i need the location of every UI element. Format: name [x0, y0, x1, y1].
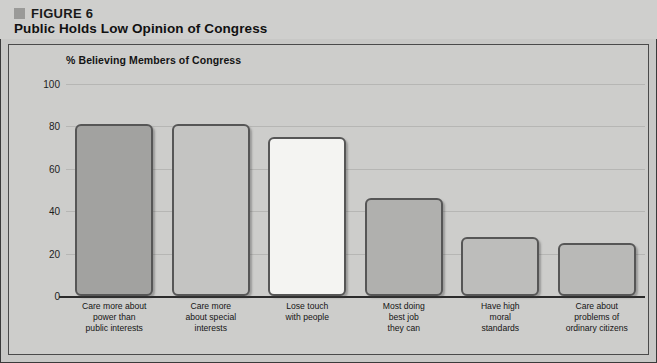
- gridline: [66, 84, 645, 85]
- plot-area: [66, 84, 645, 296]
- x-axis-tick-label: Most doingbest jobthey can: [356, 301, 453, 335]
- figure-number-line: FIGURE 6: [14, 6, 93, 21]
- x-axis-label-line: problems of: [549, 312, 646, 323]
- y-axis-tick-label: 20: [26, 248, 60, 259]
- x-axis-label-line: standards: [452, 323, 549, 334]
- bar: [172, 124, 250, 296]
- gridline: [66, 296, 645, 297]
- x-axis-tick-label: Have highmoralstandards: [452, 301, 549, 335]
- x-axis-label-line: about special: [163, 312, 260, 323]
- figure-number: FIGURE 6: [31, 6, 93, 21]
- x-axis-tick-labels: Care more aboutpower thanpublic interest…: [66, 301, 645, 351]
- x-axis-label-line: best job: [356, 312, 453, 323]
- bar: [461, 237, 539, 296]
- x-axis-tick-label: Care moreabout specialinterests: [163, 301, 260, 335]
- x-axis-label-line: with people: [259, 312, 356, 323]
- x-axis-label-line: power than: [66, 312, 163, 323]
- x-axis-label-line: Have high: [452, 301, 549, 312]
- y-axis-tick-label: 100: [26, 79, 60, 90]
- x-axis-tick-label: Lose touchwith people: [259, 301, 356, 323]
- x-axis-label-line: public interests: [66, 323, 163, 334]
- x-axis-label-line: Most doing: [356, 301, 453, 312]
- gridline: [66, 126, 645, 127]
- bar: [75, 124, 153, 296]
- x-axis-label-line: ordinary citizens: [549, 323, 646, 334]
- x-axis-label-line: Lose touch: [259, 301, 356, 312]
- bar: [268, 137, 346, 296]
- y-axis-tick-label: 80: [26, 121, 60, 132]
- x-axis-label-line: moral: [452, 312, 549, 323]
- x-axis-label-line: Care about: [549, 301, 646, 312]
- y-axis-tick-labels: 020406080100: [24, 84, 60, 296]
- y-axis-tick-label: 40: [26, 206, 60, 217]
- square-bullet-icon: [14, 8, 25, 19]
- x-axis-label-line: Care more about: [66, 301, 163, 312]
- x-axis-label-line: they can: [356, 323, 453, 334]
- y-axis-tick-label: 60: [26, 163, 60, 174]
- x-axis-label-line: Care more: [163, 301, 260, 312]
- x-axis-label-line: interests: [163, 323, 260, 334]
- y-axis-tick-label: 0: [26, 291, 60, 302]
- x-axis-tick-label: Care more aboutpower thanpublic interest…: [66, 301, 163, 335]
- figure-root: FIGURE 6 Public Holds Low Opinion of Con…: [0, 0, 657, 363]
- figure-title: Public Holds Low Opinion of Congress: [14, 21, 267, 36]
- chart-subtitle: % Believing Members of Congress: [66, 54, 241, 66]
- figure-header: FIGURE 6 Public Holds Low Opinion of Con…: [0, 0, 657, 39]
- bar: [558, 243, 636, 296]
- bar: [365, 198, 443, 296]
- x-axis-tick-label: Care aboutproblems ofordinary citizens: [549, 301, 646, 335]
